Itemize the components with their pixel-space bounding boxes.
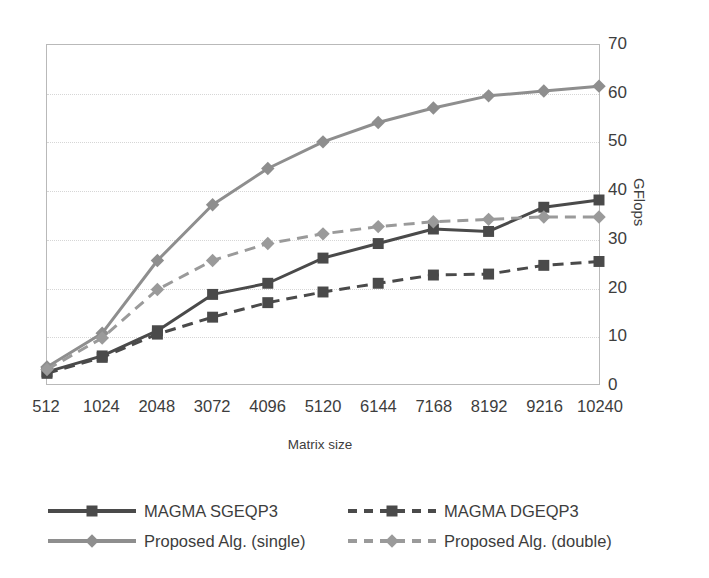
data-point-marker-square bbox=[207, 289, 218, 300]
data-point-marker-square bbox=[318, 253, 329, 264]
data-point-marker-diamond bbox=[206, 254, 219, 267]
y-axis-title: GFlops bbox=[631, 178, 648, 226]
data-point-marker-square bbox=[97, 352, 108, 363]
legend-swatch-square-icon bbox=[346, 502, 438, 520]
series-line bbox=[47, 261, 599, 373]
legend-swatch-diamond-icon bbox=[346, 532, 438, 550]
data-point-marker-diamond bbox=[592, 210, 605, 223]
x-axis-tick-label: 5120 bbox=[305, 396, 342, 416]
x-axis-title: Matrix size bbox=[0, 437, 640, 452]
y-axis-tick-label: 40 bbox=[608, 181, 627, 198]
data-point-marker-diamond bbox=[592, 79, 605, 92]
legend-label: Proposed Alg. (single) bbox=[144, 532, 305, 551]
series-layer bbox=[47, 45, 599, 384]
series-line bbox=[47, 200, 599, 372]
x-axis-tick-label: 10240 bbox=[577, 396, 623, 416]
series-line bbox=[47, 86, 599, 367]
data-point-marker-square bbox=[483, 226, 494, 237]
data-point-marker-square bbox=[262, 278, 273, 289]
x-axis-tick-label: 512 bbox=[32, 396, 60, 416]
data-point-marker-diamond bbox=[482, 213, 495, 226]
data-point-marker-square bbox=[318, 287, 329, 298]
data-point-marker-diamond bbox=[385, 534, 399, 548]
legend-label: MAGMA SGEQP3 bbox=[144, 502, 278, 521]
y-axis-tick-label: 30 bbox=[608, 230, 627, 247]
x-axis-tick-label: 8192 bbox=[471, 396, 508, 416]
data-point-marker-square bbox=[538, 260, 549, 271]
data-point-marker-diamond bbox=[427, 101, 440, 114]
legend-label: Proposed Alg. (double) bbox=[444, 532, 612, 551]
legend-swatch-square-icon bbox=[46, 502, 138, 520]
y-axis-tick-label: 60 bbox=[608, 84, 627, 101]
y-axis-tick-label: 0 bbox=[608, 376, 617, 393]
data-point-marker-diamond bbox=[371, 116, 384, 129]
data-point-marker-square bbox=[428, 270, 439, 281]
y-axis-tick-label: 10 bbox=[608, 327, 627, 344]
gflops-line-chart: 010203040506070 GFlops 51210242048307240… bbox=[0, 0, 709, 578]
data-point-marker-square bbox=[373, 238, 384, 249]
data-point-marker-diamond bbox=[371, 220, 384, 233]
x-axis-tick-label: 4096 bbox=[249, 396, 286, 416]
x-axis-tick-label: 2048 bbox=[138, 396, 175, 416]
data-point-marker-square bbox=[387, 506, 398, 517]
legend-item-3[interactable]: Proposed Alg. (single) bbox=[46, 532, 346, 551]
legend-item-2[interactable]: MAGMA DGEQP3 bbox=[346, 502, 646, 521]
y-axis-tick-label: 20 bbox=[608, 279, 627, 296]
x-axis-tick-label: 1024 bbox=[83, 396, 120, 416]
data-point-marker-diamond bbox=[261, 237, 274, 250]
data-point-marker-square bbox=[594, 195, 605, 206]
legend-item-1[interactable]: MAGMA SGEQP3 bbox=[46, 502, 346, 521]
data-point-marker-diamond bbox=[85, 534, 99, 548]
x-axis-ticks: 5121024204830724096512061447168819292161… bbox=[46, 396, 600, 418]
series-1 bbox=[42, 195, 605, 378]
data-point-marker-square bbox=[152, 329, 163, 340]
data-point-marker-diamond bbox=[316, 227, 329, 240]
data-point-marker-square bbox=[373, 278, 384, 289]
y-axis-tick-label: 70 bbox=[608, 35, 627, 52]
data-point-marker-diamond bbox=[482, 89, 495, 102]
data-point-marker-square bbox=[483, 269, 494, 280]
y-axis-tick-label: 50 bbox=[608, 132, 627, 149]
data-point-marker-square bbox=[207, 312, 218, 323]
legend-swatch-diamond-icon bbox=[46, 532, 138, 550]
data-point-marker-diamond bbox=[316, 135, 329, 148]
series-3 bbox=[40, 79, 605, 373]
data-point-marker-square bbox=[87, 506, 98, 517]
data-point-marker-square bbox=[262, 297, 273, 308]
legend-label: MAGMA DGEQP3 bbox=[444, 502, 579, 521]
x-axis-tick-label: 7168 bbox=[415, 396, 452, 416]
data-point-marker-diamond bbox=[537, 84, 550, 97]
x-axis-tick-label: 9216 bbox=[526, 396, 563, 416]
chart-legend: MAGMA SGEQP3MAGMA DGEQP3Proposed Alg. (s… bbox=[46, 496, 666, 556]
data-point-marker-square bbox=[594, 256, 605, 267]
x-axis-tick-label: 3072 bbox=[194, 396, 231, 416]
plot-area bbox=[46, 44, 600, 385]
legend-item-4[interactable]: Proposed Alg. (double) bbox=[346, 532, 646, 551]
x-axis-tick-label: 6144 bbox=[360, 396, 397, 416]
